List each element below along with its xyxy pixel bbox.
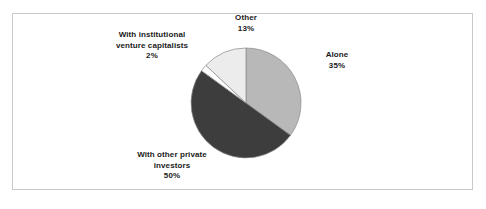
pie-slices-group [191,48,301,158]
pie-label-institutional-venture-capitalists: With institutional venture capitalists 2… [96,30,208,62]
pie-label-other-private-investors: With other private investors 50% [112,150,232,182]
pie-label-alone: Alone 35% [300,50,374,71]
pie-label-institutional-text-line1: With institutional [96,30,208,41]
pie-label-other: Other 13% [198,13,294,34]
pie-label-other-text: Other [198,13,294,24]
pie-label-alone-text: Alone [300,50,374,61]
pie-label-private-text-line2: investors [112,161,232,172]
pie-label-alone-value: 35% [300,61,374,72]
pie-label-private-text-line1: With other private [112,150,232,161]
chart-figure: Other 13% With institutional venture cap… [0,0,486,209]
pie-label-other-value: 13% [198,24,294,35]
pie-label-institutional-value: 2% [96,51,208,62]
pie-label-private-value: 50% [112,171,232,182]
pie-chart-area: Other 13% With institutional venture cap… [0,0,486,209]
pie-label-institutional-text-line2: venture capitalists [96,41,208,52]
